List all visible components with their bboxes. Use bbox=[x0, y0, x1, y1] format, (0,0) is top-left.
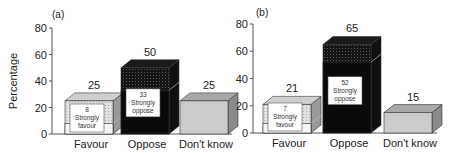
bar-value-label: 21 bbox=[286, 82, 298, 94]
svg-text:Strongly: Strongly bbox=[75, 114, 100, 122]
y-tick-label: 80 bbox=[236, 18, 248, 30]
bar-don-t-know: 15Don't know bbox=[383, 91, 442, 149]
y-tick-label: 0 bbox=[41, 128, 47, 140]
y-tick-label: 20 bbox=[35, 102, 47, 114]
x-category-label: Oppose bbox=[128, 138, 167, 150]
y-tick-label: 40 bbox=[236, 73, 248, 85]
svg-text:oppose: oppose bbox=[132, 107, 154, 115]
bar-value-label: 50 bbox=[144, 46, 156, 58]
bar-value-label: 25 bbox=[203, 79, 215, 91]
bar-favour: 8Stronglyfavour25Favour bbox=[65, 79, 123, 150]
strongly-value: 33 bbox=[139, 91, 147, 98]
svg-text:favour: favour bbox=[78, 122, 97, 129]
bar-don-t-know: 25Don't know bbox=[179, 79, 238, 150]
chart-panel-a: (a)020406080Percentage8Stronglyfavour25F… bbox=[7, 9, 238, 150]
chart-panel-b: (b)0204060807Stronglyfavour21Favour52Str… bbox=[236, 7, 442, 149]
svg-text:Strongly: Strongly bbox=[273, 113, 298, 121]
strongly-value: 8 bbox=[85, 106, 89, 113]
y-tick-label: 80 bbox=[35, 22, 47, 34]
svg-text:Strongly: Strongly bbox=[131, 99, 156, 107]
y-tick-label: 60 bbox=[35, 49, 47, 61]
svg-text:Strongly: Strongly bbox=[333, 87, 358, 95]
strongly-value: 7 bbox=[283, 105, 287, 112]
x-category-label: Oppose bbox=[330, 137, 369, 149]
y-tick-label: 40 bbox=[35, 75, 47, 87]
panel-label: (b) bbox=[256, 7, 268, 18]
bar-favour: 7Stronglyfavour21Favour bbox=[263, 82, 321, 149]
bar-oppose: 52Stronglyoppose65Oppose bbox=[323, 22, 381, 149]
y-tick-label: 20 bbox=[236, 100, 248, 112]
svg-text:favour: favour bbox=[276, 121, 295, 128]
x-category-label: Don't know bbox=[179, 138, 233, 150]
x-category-label: Favour bbox=[74, 138, 109, 150]
svg-text:oppose: oppose bbox=[334, 95, 356, 103]
x-category-label: Don't know bbox=[383, 137, 437, 149]
bar-value-label: 15 bbox=[407, 91, 419, 103]
y-tick-label: 0 bbox=[242, 127, 248, 139]
bar-value-label: 25 bbox=[88, 79, 100, 91]
y-axis-label: Percentage bbox=[7, 53, 19, 109]
x-category-label: Favour bbox=[272, 137, 307, 149]
chart-svg: (a)020406080Percentage8Stronglyfavour25F… bbox=[0, 0, 459, 153]
y-tick-label: 60 bbox=[236, 45, 248, 57]
strongly-value: 52 bbox=[341, 79, 349, 86]
panel-label: (a) bbox=[52, 9, 64, 20]
bar-value-label: 65 bbox=[346, 22, 358, 34]
